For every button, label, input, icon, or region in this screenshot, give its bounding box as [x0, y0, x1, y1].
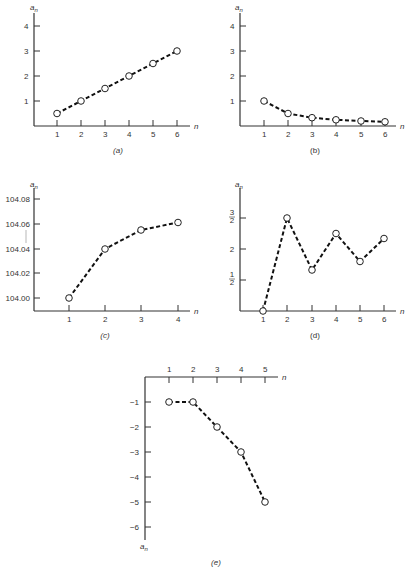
y-ticks: 104.00 104.02 104.04 104.06 104.08	[6, 195, 40, 303]
svg-text:3: 3	[310, 130, 315, 139]
svg-text:2: 2	[79, 130, 84, 139]
y-axis-label: an	[235, 180, 243, 190]
y-axis-label: an	[30, 3, 38, 13]
x-ticks: 1 2 3 4	[67, 305, 181, 324]
svg-text:4: 4	[230, 22, 235, 31]
chart-caption: (c)	[100, 331, 110, 340]
y-ticks: −1 −2 −3 −4 −5 −6	[130, 398, 151, 532]
data-line	[57, 51, 177, 114]
svg-text:−2: −2	[130, 423, 140, 432]
svg-text:3: 3	[310, 315, 315, 324]
data-points	[66, 219, 182, 301]
svg-text:6: 6	[383, 130, 388, 139]
chart-a: an n 1 2 3 4 1 2 3 4 5 6 (a)	[24, 3, 199, 155]
svg-text:2: 2	[24, 72, 29, 81]
y-axis-label: an	[140, 542, 148, 552]
y-ticks: 1 2 3 4	[24, 22, 40, 106]
x-axis-label: n	[282, 373, 287, 382]
x-ticks: 1 2 3 4 5 6	[55, 120, 180, 139]
tick-label-half: 1 2	[229, 270, 235, 287]
data-line	[264, 101, 385, 122]
svg-text:5: 5	[359, 130, 364, 139]
svg-text:2: 2	[230, 245, 235, 254]
chart-b: an n 1 2 3 4 1 2 3 4 5 6 (b)	[230, 3, 405, 155]
svg-text:4: 4	[334, 315, 339, 324]
svg-text:4: 4	[334, 130, 339, 139]
svg-text:5: 5	[151, 130, 156, 139]
chart-caption: (d)	[310, 331, 320, 340]
svg-text:3: 3	[230, 47, 235, 56]
data-points	[166, 399, 269, 506]
figure-canvas: an n 1 2 3 4 1 2 3 4 5 6 (a) an n 1 2	[0, 0, 411, 572]
svg-text:4: 4	[176, 315, 181, 324]
data-points	[261, 98, 389, 125]
svg-text:−6: −6	[130, 523, 140, 532]
svg-text:1: 1	[67, 315, 72, 324]
svg-text:104.00: 104.00	[6, 294, 31, 303]
data-line	[69, 223, 178, 299]
chart-d: an n 1 2 2 3 2 1 2 3 4 5 6	[229, 180, 405, 340]
x-ticks: 1 2 3 4 5 6	[261, 305, 387, 324]
svg-text:3: 3	[24, 47, 29, 56]
svg-text:5: 5	[358, 315, 363, 324]
svg-text:2: 2	[286, 130, 291, 139]
chart-c: an n 104.00 104.02 104.04 104.06 104.08 …	[6, 180, 199, 340]
data-line	[263, 218, 384, 311]
data-line	[169, 402, 265, 502]
x-axis-label: n	[194, 307, 199, 316]
data-points	[260, 215, 388, 315]
svg-text:−1: −1	[130, 398, 140, 407]
y-ticks: 1 2 3 4	[230, 22, 246, 106]
chart-caption: (e)	[211, 558, 221, 567]
svg-text:104.06: 104.06	[6, 220, 31, 229]
svg-text:104.08: 104.08	[6, 195, 31, 204]
x-ticks: 1 2 3 4 5	[167, 365, 268, 383]
svg-text:−5: −5	[130, 498, 140, 507]
svg-text:2: 2	[230, 278, 235, 287]
svg-text:6: 6	[175, 130, 180, 139]
svg-text:1: 1	[55, 130, 60, 139]
svg-text:2: 2	[191, 365, 196, 374]
svg-text:3: 3	[215, 365, 220, 374]
svg-text:1: 1	[261, 315, 266, 324]
svg-text:104.04: 104.04	[6, 245, 31, 254]
chart-caption: (b)	[310, 146, 320, 155]
x-axis-label: n	[194, 122, 199, 131]
y-ticks: 1 2 2 3 2	[229, 208, 246, 287]
svg-text:−3: −3	[130, 448, 140, 457]
svg-text:2: 2	[103, 315, 108, 324]
svg-text:4: 4	[127, 130, 132, 139]
chart-e: an n −1 −2 −3 −4 −5 −6 1 2 3 4 5 (e)	[130, 365, 287, 567]
svg-text:−4: −4	[130, 473, 140, 482]
svg-text:1: 1	[262, 130, 267, 139]
svg-text:2: 2	[230, 72, 235, 81]
svg-text:3: 3	[103, 130, 108, 139]
chart-caption: (a)	[113, 146, 123, 155]
svg-text:3: 3	[139, 315, 144, 324]
y-axis-label: an	[235, 3, 243, 13]
svg-text:1: 1	[230, 97, 235, 106]
svg-text:4: 4	[239, 365, 244, 374]
y-axis-label: an	[30, 180, 38, 190]
tick-label-three-halves: 3 2	[229, 208, 235, 225]
x-ticks: 1 2 3 4 5 6	[262, 120, 388, 139]
svg-text:1: 1	[167, 365, 172, 374]
x-axis-label: n	[400, 307, 405, 316]
svg-text:2: 2	[230, 216, 235, 225]
svg-text:104.02: 104.02	[6, 269, 31, 278]
svg-text:4: 4	[24, 22, 29, 31]
svg-text:6: 6	[382, 315, 387, 324]
x-axis-label: n	[400, 122, 405, 131]
svg-text:5: 5	[263, 365, 268, 374]
svg-text:2: 2	[285, 315, 290, 324]
svg-text:1: 1	[24, 97, 29, 106]
